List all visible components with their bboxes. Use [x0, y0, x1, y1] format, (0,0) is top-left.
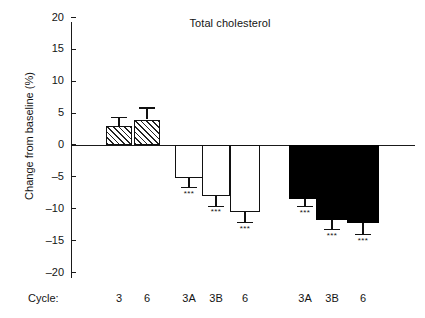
bar-6-hatch	[134, 120, 160, 146]
bar-3A-open	[175, 145, 203, 178]
y-axis-tick-label: 0	[24, 138, 64, 150]
significance-marker: ***	[294, 209, 316, 217]
y-axis-tick-label: –20	[24, 266, 64, 278]
y-axis-tick-label: 5	[24, 106, 64, 118]
y-axis-tick-label: 20	[24, 11, 64, 23]
x-axis-label-3: 3	[104, 292, 134, 304]
y-axis-tick-label: –10	[24, 202, 64, 214]
bar-6-solid	[347, 145, 379, 223]
y-axis-tick	[71, 81, 76, 82]
significance-marker: ***	[234, 225, 256, 233]
significance-marker: ***	[178, 190, 200, 198]
y-axis-tick	[71, 176, 76, 177]
bar-6-open	[230, 145, 260, 212]
significance-marker: ***	[321, 232, 343, 240]
error-bar-cap	[111, 117, 127, 118]
chart-title: Total cholesterol	[150, 17, 310, 29]
y-axis-tick	[71, 208, 76, 209]
x-axis-label-3A: 3A	[174, 292, 204, 304]
x-axis-label-3B: 3B	[201, 292, 231, 304]
x-axis-label-6: 6	[230, 292, 260, 304]
y-axis-tick	[71, 17, 76, 18]
bar-3-hatch	[106, 126, 132, 145]
y-axis-tick	[71, 240, 76, 241]
x-axis-label-6: 6	[132, 292, 162, 304]
bar-3B-solid	[316, 145, 348, 220]
error-bar-stem	[146, 108, 147, 119]
y-axis-tick	[71, 272, 76, 273]
significance-marker: ***	[205, 208, 227, 216]
error-bar-stem	[244, 212, 245, 223]
y-axis-tick	[71, 49, 76, 50]
y-axis-tick-label: –15	[24, 234, 64, 246]
x-axis-label-3A: 3A	[290, 292, 320, 304]
x-axis-label-3B: 3B	[317, 292, 347, 304]
y-axis-tick	[71, 113, 76, 114]
y-axis-tick-label: 15	[24, 42, 64, 54]
chart-figure: Total cholesterol Change from baseline (…	[0, 0, 425, 318]
x-axis-label-6: 6	[348, 292, 378, 304]
significance-marker: ***	[352, 237, 374, 245]
y-axis-tick-label: –5	[24, 170, 64, 182]
y-axis-tick-label: 10	[24, 74, 64, 86]
x-axis-caption: Cycle:	[28, 292, 59, 304]
error-bar-stem	[118, 118, 119, 126]
error-bar-cap	[139, 107, 155, 108]
y-axis-tick	[71, 144, 76, 145]
error-bar-stem	[362, 223, 363, 235]
bar-3B-open	[202, 145, 230, 196]
